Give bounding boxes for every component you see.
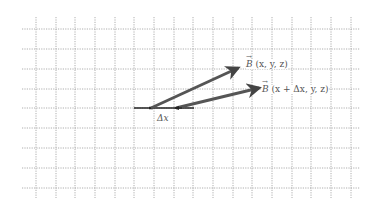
label-b-x-y-z: B (x, y, z) [246, 60, 288, 69]
label-args: (x, y, z) [256, 59, 288, 69]
vector-symbol-b: B [246, 60, 253, 69]
label-args: (x + Δx, y, z) [272, 84, 329, 94]
vector-symbol-b: B [262, 85, 269, 94]
label-b-x-plus-dx-y-z: B (x + Δx, y, z) [262, 85, 329, 94]
diagram-canvas [0, 0, 381, 212]
label-delta-x: Δx [157, 114, 169, 123]
